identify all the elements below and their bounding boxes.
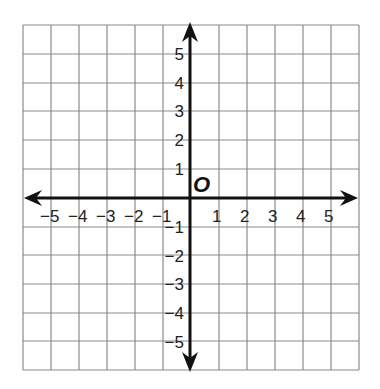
svg-text:4: 4: [296, 207, 305, 226]
svg-text:2: 2: [240, 207, 249, 226]
x-tick-labels: −5 −4 −3 −2 −1 1 2 3 4 5: [40, 207, 333, 226]
origin-label: O: [193, 172, 210, 197]
svg-text:−3: −3: [165, 275, 184, 294]
svg-text:1: 1: [175, 160, 184, 179]
svg-text:2: 2: [175, 131, 184, 150]
svg-text:3: 3: [175, 102, 184, 121]
svg-text:4: 4: [175, 74, 184, 93]
svg-text:5: 5: [324, 207, 333, 226]
svg-text:1: 1: [212, 207, 221, 226]
svg-text:−5: −5: [40, 207, 59, 226]
coordinate-plane: O −5 −4 −3 −2 −1 1 2 3 4 5 5 4 3 2 1 −1 …: [0, 0, 380, 389]
svg-text:−5: −5: [165, 333, 184, 352]
svg-text:−2: −2: [124, 207, 143, 226]
svg-text:−1: −1: [165, 218, 184, 237]
svg-text:−4: −4: [68, 207, 87, 226]
svg-text:−3: −3: [96, 207, 115, 226]
svg-text:−4: −4: [165, 304, 184, 323]
svg-text:−2: −2: [165, 247, 184, 266]
svg-text:5: 5: [175, 45, 184, 64]
svg-text:3: 3: [268, 207, 277, 226]
